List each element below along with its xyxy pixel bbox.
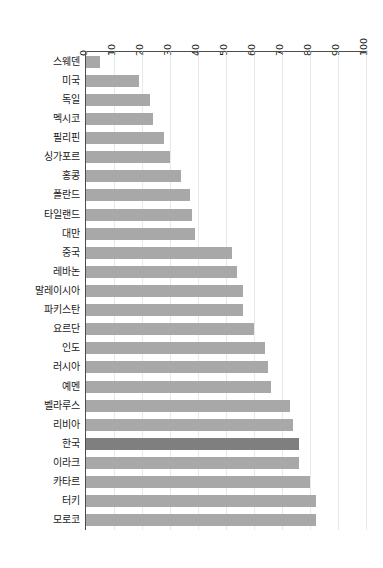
bar [86, 342, 265, 354]
bar-chart: 0102030405060708090100 스웨덴미국독일멕시코필리핀싱가포르… [0, 0, 383, 568]
category-label: 리비아 [53, 419, 80, 431]
bar [86, 438, 299, 450]
category-label: 이라크 [53, 457, 80, 469]
bar [86, 495, 316, 507]
x-axis-tick-labels: 0102030405060708090100 [0, 0, 383, 52]
bar [86, 94, 150, 106]
bar [86, 75, 139, 87]
category-label: 카타르 [53, 476, 80, 488]
bar [86, 381, 271, 393]
x-axis-tick [366, 51, 367, 55]
category-label: 스웨덴 [53, 56, 80, 68]
bar [86, 228, 195, 240]
bar [86, 113, 153, 125]
category-label: 타일랜드 [44, 209, 80, 221]
y-axis-category-labels: 스웨덴미국독일멕시코필리핀싱가포르홍콩폴란드타일랜드대만중국레바논말레이시아파키… [0, 52, 85, 530]
x-axis-tick [86, 51, 87, 55]
plot-area [85, 52, 366, 530]
category-label: 폴란드 [53, 189, 80, 201]
bar [86, 247, 232, 259]
x-axis-tick [282, 51, 283, 55]
category-label: 필리핀 [53, 132, 80, 144]
gridline [338, 52, 339, 530]
category-label: 대만 [62, 228, 80, 240]
bar [86, 514, 316, 526]
bar [86, 457, 299, 469]
bar [86, 189, 190, 201]
category-label: 독일 [62, 94, 80, 106]
category-label: 요르단 [53, 323, 80, 335]
category-label: 벨라루스 [44, 400, 80, 412]
category-label: 레바논 [53, 266, 80, 278]
bar [86, 476, 310, 488]
bar [86, 132, 164, 144]
x-axis-tick [254, 51, 255, 55]
category-label: 미국 [62, 75, 80, 87]
category-label: 러시아 [53, 361, 80, 373]
category-label: 중국 [62, 247, 80, 259]
gridline [366, 52, 367, 530]
x-axis-tick [114, 51, 115, 55]
bar [86, 304, 243, 316]
x-axis-tick [226, 51, 227, 55]
category-label: 말레이시아 [35, 285, 80, 297]
category-label: 멕시코 [53, 113, 80, 125]
x-axis-tick [310, 51, 311, 55]
x-axis-tick [338, 51, 339, 55]
bar [86, 151, 170, 163]
category-label: 터키 [62, 495, 80, 507]
x-axis-tick [142, 51, 143, 55]
category-label: 인도 [62, 342, 80, 354]
category-label: 싱가포르 [44, 151, 80, 163]
bar [86, 209, 192, 221]
bar [86, 266, 237, 278]
category-label: 파키스탄 [44, 304, 80, 316]
bar [86, 400, 290, 412]
category-label: 예멘 [62, 381, 80, 393]
category-label: 홍콩 [62, 170, 80, 182]
bar [86, 56, 100, 68]
x-axis-tick [198, 51, 199, 55]
gridline [310, 52, 311, 530]
category-label: 한국 [62, 438, 80, 450]
category-label: 모로코 [53, 514, 80, 526]
bar [86, 419, 293, 431]
bar [86, 285, 243, 297]
bar [86, 361, 268, 373]
bar [86, 170, 181, 182]
bar [86, 323, 254, 335]
x-axis-tick [170, 51, 171, 55]
